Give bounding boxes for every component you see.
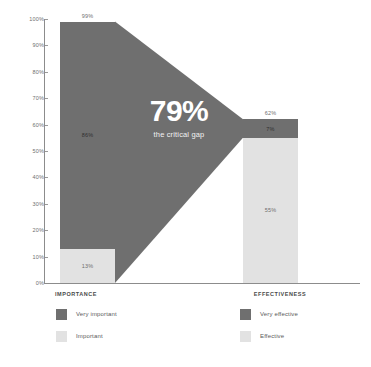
callout-value: 79% <box>117 96 241 126</box>
bar-importance-segment-important-label: 13% <box>60 263 115 269</box>
legend-item-label: Important <box>76 333 103 339</box>
legend-column-importance: Very important Important <box>56 303 117 347</box>
legend-swatch-icon <box>56 309 67 320</box>
y-axis-tick-label: 0% <box>6 280 44 286</box>
category-label-effectiveness: EFFECTIVENESS <box>210 291 350 297</box>
legend-item[interactable]: Very effective <box>240 303 298 325</box>
callout-subtext: the critical gap <box>117 130 241 139</box>
legend-item-label: Effective <box>260 333 284 339</box>
funnel-wedge <box>0 0 371 300</box>
bar-effectiveness-segment-effective[interactable]: 55% <box>243 138 298 283</box>
bar-importance-total-label: 99% <box>60 13 115 19</box>
y-axis-tick-label: 100% <box>6 16 44 22</box>
bar-effectiveness-segment-very-effective[interactable]: 7% <box>243 119 298 137</box>
y-axis-tick-label: 30% <box>6 201 44 207</box>
legend-column-effectiveness: Very effective Effective <box>240 303 298 347</box>
y-axis-tick-label: 20% <box>6 227 44 233</box>
y-axis-tick-label: 50% <box>6 148 44 154</box>
y-axis-tick-label: 60% <box>6 122 44 128</box>
bar-effectiveness-segment-effective-label: 55% <box>243 207 298 213</box>
legend-item-label: Very important <box>76 311 117 317</box>
legend-item[interactable]: Effective <box>240 325 298 347</box>
y-axis-tick-label: 10% <box>6 254 44 260</box>
legend-item-label: Very effective <box>260 311 298 317</box>
y-axis-line <box>44 19 45 284</box>
y-axis-tick-label: 80% <box>6 69 44 75</box>
bar-effectiveness-segment-very-effective-label: 7% <box>243 126 298 132</box>
legend-item[interactable]: Very important <box>56 303 117 325</box>
category-label-importance: IMPORTANCE <box>6 291 146 297</box>
legend-item[interactable]: Important <box>56 325 117 347</box>
chart-container: 100%90%80%70%60%50%40%30%20%10%0% 99% 86… <box>0 0 371 367</box>
bar-importance-segment-very-important[interactable]: 86% <box>60 22 115 249</box>
legend-swatch-icon <box>240 331 251 342</box>
y-axis-tick-label: 90% <box>6 42 44 48</box>
bar-importance[interactable]: 99% 86% 13% <box>60 0 115 300</box>
legend-swatch-icon <box>240 309 251 320</box>
bar-effectiveness[interactable]: 62% 7% 55% <box>243 0 298 300</box>
legend: Very important Important Very effective … <box>0 303 371 365</box>
legend-swatch-icon <box>56 331 67 342</box>
y-axis-tick-label: 70% <box>6 95 44 101</box>
y-axis-tick-label: 40% <box>6 174 44 180</box>
bar-effectiveness-total-label: 62% <box>243 110 298 116</box>
plot-area: 100%90%80%70%60%50%40%30%20%10%0% 99% 86… <box>0 0 371 300</box>
bar-importance-segment-important[interactable]: 13% <box>60 249 115 283</box>
callout-annotation: 79% the critical gap <box>117 96 241 139</box>
bar-importance-segment-very-important-label: 86% <box>60 132 115 138</box>
